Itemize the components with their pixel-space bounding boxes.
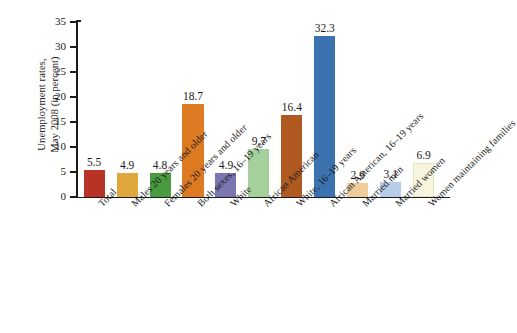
y-axis-tick-label: 20 [42,91,66,102]
bar-value-label: 16.4 [272,101,312,113]
y-axis-tick-label: 30 [42,41,66,52]
y-axis-tick-label: 15 [42,116,66,127]
bar-group: 9.7 [248,22,269,197]
y-axis-tick-label: 25 [42,66,66,77]
bar [84,170,105,198]
bar [117,173,138,198]
bar-value-label: 18.7 [173,90,213,102]
bar-value-label: 32.3 [305,22,345,34]
y-axis-tick-label: 0 [42,191,66,202]
y-axis-tick-label: 10 [42,141,66,152]
bar-group: 5.5 [84,22,105,197]
bar-group: 4.9 [117,22,138,197]
y-axis-tick-label: 35 [42,16,66,27]
y-axis-tick-label: 5 [42,166,66,177]
